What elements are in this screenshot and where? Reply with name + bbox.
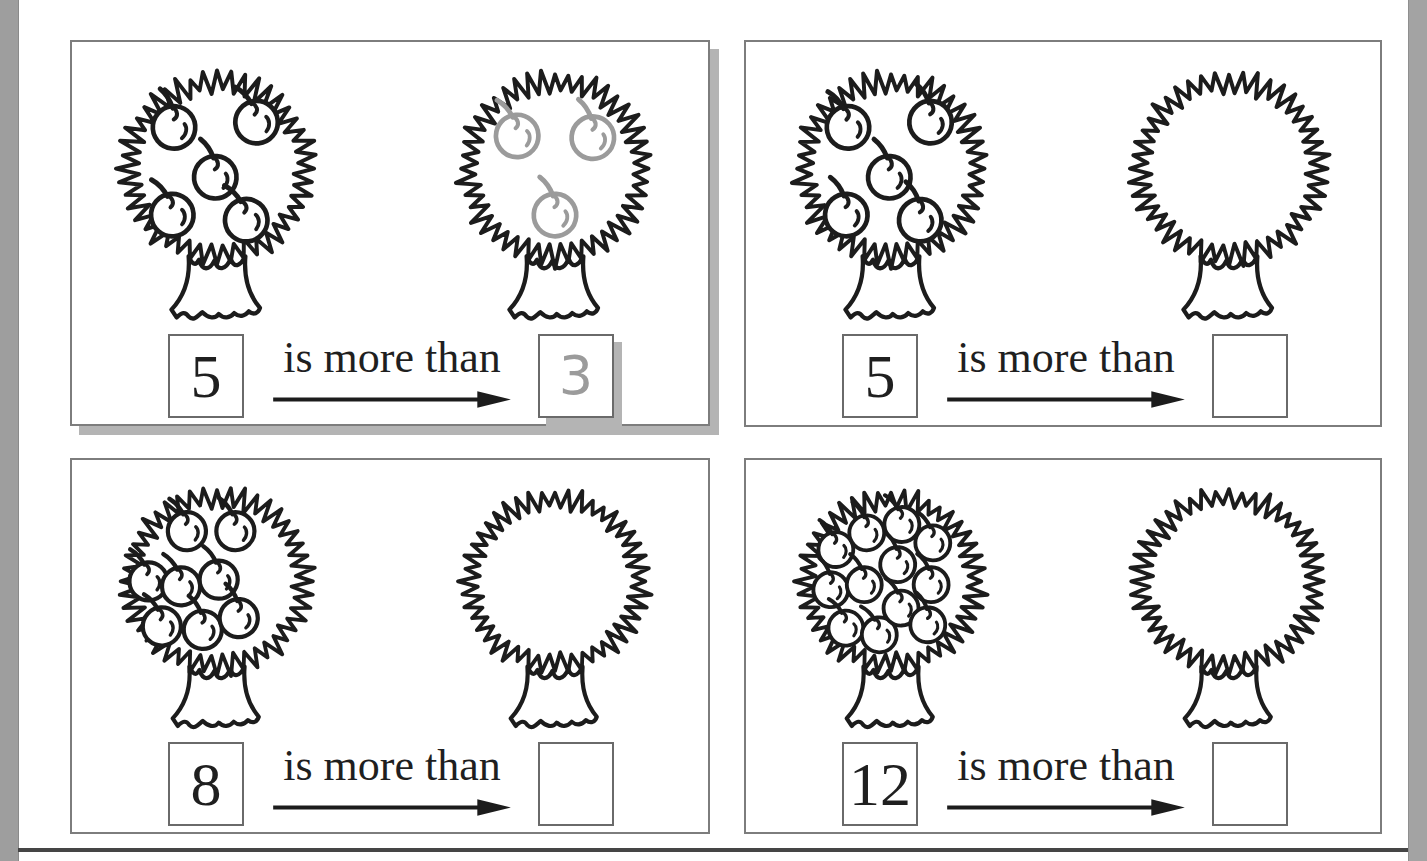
page-bottom-rule [18, 848, 1408, 852]
answer-box: 3 [538, 334, 614, 418]
page-left-edge [0, 0, 19, 861]
count-box: 5 [842, 334, 918, 418]
apple-tree-right-image [422, 50, 688, 338]
comparison: is more than [247, 334, 537, 411]
arrow-icon [946, 796, 1186, 819]
apple-tree-right-image [1096, 466, 1362, 746]
arrow-icon [272, 388, 512, 411]
answer-box[interactable] [538, 742, 614, 826]
arrow-icon [272, 796, 512, 819]
apple-tree-right-image [422, 466, 688, 746]
apple-tree-left-image [84, 50, 350, 338]
comparison-label: is more than [247, 334, 537, 382]
answer-box[interactable] [1212, 334, 1288, 418]
apple-tree-left-image [758, 466, 1024, 746]
count-box: 12 [842, 742, 918, 826]
count-box: 5 [168, 334, 244, 418]
apple-tree-left-image [84, 466, 350, 746]
panel-example: 5 is more than 3 [70, 40, 710, 426]
panel-exercise-1: 5 is more than [744, 40, 1382, 427]
answer-box[interactable] [1212, 742, 1288, 826]
panel-exercise-3: 12 is more than [744, 458, 1382, 834]
comparison-label: is more than [921, 742, 1211, 790]
comparison: is more than [921, 334, 1211, 411]
apple-tree-left-image [758, 50, 1024, 338]
panel-exercise-2: 8 is more than [70, 458, 710, 834]
comparison: is more than [921, 742, 1211, 819]
count-box: 8 [168, 742, 244, 826]
comparison-label: is more than [247, 742, 537, 790]
comparison: is more than [247, 742, 537, 819]
arrow-icon [946, 388, 1186, 411]
comparison-label: is more than [921, 334, 1211, 382]
page-right-edge [1408, 0, 1427, 861]
apple-tree-right-image [1096, 50, 1362, 338]
worksheet-page: 5 is more than 3 5 is more than 8 is mor… [0, 0, 1427, 861]
